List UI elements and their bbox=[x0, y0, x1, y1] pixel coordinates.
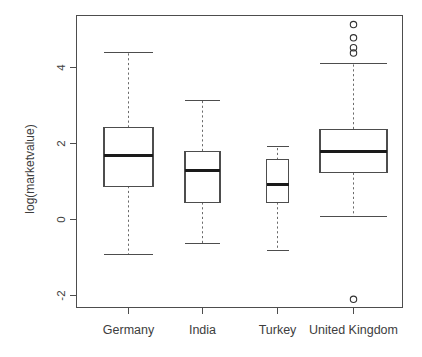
outlier-point-0 bbox=[350, 21, 356, 27]
box-group-united-kingdom[interactable] bbox=[320, 21, 387, 302]
y-axis-title: log(marketvalue) bbox=[23, 124, 37, 213]
outlier-point-1 bbox=[350, 35, 356, 41]
y-tick-label-4: 4 bbox=[55, 64, 67, 71]
y-tick-label-0: 0 bbox=[55, 216, 67, 222]
x-label-united-kingdom: United Kingdom bbox=[309, 323, 398, 337]
outlier-point-4 bbox=[350, 296, 356, 302]
box-iqr bbox=[185, 151, 220, 202]
y-tick-label-neg2: -2 bbox=[55, 290, 67, 300]
boxplot-canvas: 4 2 0 -2 log(marketvalue) Germany India … bbox=[0, 0, 422, 357]
box-group-germany[interactable] bbox=[104, 52, 153, 255]
x-label-turkey: Turkey bbox=[259, 323, 297, 337]
y-axis-ticks bbox=[70, 68, 76, 296]
box-iqr bbox=[267, 160, 289, 203]
boxes-layer bbox=[104, 21, 387, 302]
y-axis-tick-labels: 4 2 0 -2 bbox=[55, 64, 67, 301]
x-axis-labels: Germany India Turkey United Kingdom bbox=[103, 323, 398, 337]
x-label-india: India bbox=[189, 323, 216, 337]
x-axis-ticks bbox=[129, 308, 354, 314]
boxplot-figure: 4 2 0 -2 log(marketvalue) Germany India … bbox=[0, 0, 422, 357]
box-group-india[interactable] bbox=[185, 101, 220, 243]
x-label-germany: Germany bbox=[103, 323, 155, 337]
box-group-turkey[interactable] bbox=[267, 147, 289, 251]
y-tick-label-2: 2 bbox=[55, 140, 67, 146]
